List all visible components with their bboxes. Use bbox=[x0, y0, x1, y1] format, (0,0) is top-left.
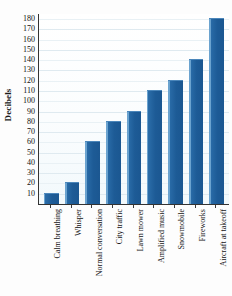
x-axis-tick-mark bbox=[195, 205, 196, 208]
x-axis-tick-mark bbox=[174, 205, 175, 208]
x-label-slot: Snowmobile bbox=[164, 209, 185, 295]
y-axis-tick-label: 120 bbox=[23, 77, 35, 85]
plot-area bbox=[38, 14, 229, 205]
bar[interactable] bbox=[168, 80, 183, 204]
x-label-slot: Calm breathing bbox=[40, 209, 61, 295]
y-axis-tick-label: 80 bbox=[27, 118, 35, 126]
x-axis-tick-mark bbox=[215, 205, 216, 208]
y-axis-tick-label: 140 bbox=[23, 56, 35, 64]
y-axis-tick-label: 60 bbox=[27, 138, 35, 146]
y-axis-tick-label: 40 bbox=[27, 159, 35, 167]
y-axis-tick-label: 160 bbox=[23, 36, 35, 44]
y-axis-tick-label: 30 bbox=[27, 169, 35, 177]
x-label-slot: Lawn mower bbox=[123, 209, 144, 295]
x-axis-tick-mark bbox=[50, 205, 51, 208]
y-axis-tick-label: 10 bbox=[27, 190, 35, 198]
bar-slot bbox=[41, 14, 62, 204]
bar-slot bbox=[186, 14, 207, 204]
x-axis-category-label: Aircraft at takeoff bbox=[220, 209, 228, 267]
y-axis-tick-label: 180 bbox=[23, 15, 35, 23]
bar-slot bbox=[82, 14, 103, 204]
bar[interactable] bbox=[106, 121, 121, 204]
x-label-slot: Whisper bbox=[61, 209, 82, 295]
x-label-slot: Fireworks bbox=[185, 209, 206, 295]
y-axis-tick-label: 150 bbox=[23, 46, 35, 54]
bar-slot bbox=[103, 14, 124, 204]
x-axis-tick-mark bbox=[133, 205, 134, 208]
bar-chart-figure: Decibels 1020304050607080901001101201301… bbox=[0, 0, 232, 296]
bar[interactable] bbox=[209, 18, 224, 204]
bar[interactable] bbox=[189, 59, 204, 204]
y-axis-tick-label: 90 bbox=[27, 108, 35, 116]
bar-slot bbox=[206, 14, 227, 204]
y-axis-tick-label: 130 bbox=[23, 66, 35, 74]
bar-slot bbox=[124, 14, 145, 204]
y-axis-tick-label: 20 bbox=[27, 179, 35, 187]
y-axis-tick-label: 170 bbox=[23, 25, 35, 33]
bar[interactable] bbox=[65, 182, 80, 204]
bar[interactable] bbox=[44, 193, 59, 204]
y-axis-tick-label: 100 bbox=[23, 97, 35, 105]
bar[interactable] bbox=[147, 90, 162, 204]
x-axis-category-labels: Calm breathingWhisperNormal conversation… bbox=[38, 209, 228, 295]
x-label-slot: Aircraft at takeoff bbox=[205, 209, 226, 295]
x-axis-tick-mark bbox=[71, 205, 72, 208]
bar[interactable] bbox=[85, 141, 100, 204]
x-label-slot: Amplified music bbox=[143, 209, 164, 295]
y-axis-title-text: Decibels bbox=[3, 89, 13, 122]
y-axis-tick-label: 70 bbox=[27, 128, 35, 136]
y-axis-tick-labels: 1020304050607080901001101201301401501601… bbox=[14, 14, 36, 204]
x-label-slot: City traffic bbox=[102, 209, 123, 295]
y-axis-tick-label: 50 bbox=[27, 149, 35, 157]
x-label-slot: Normal conversation bbox=[81, 209, 102, 295]
bar-series bbox=[39, 14, 229, 204]
x-axis-tick-mark bbox=[112, 205, 113, 208]
bar[interactable] bbox=[127, 111, 142, 204]
bar-slot bbox=[144, 14, 165, 204]
x-axis-tick-mark bbox=[91, 205, 92, 208]
x-axis-tick-mark bbox=[153, 205, 154, 208]
bar-slot bbox=[62, 14, 83, 204]
y-axis-tick-label: 110 bbox=[23, 87, 35, 95]
bar-slot bbox=[165, 14, 186, 204]
